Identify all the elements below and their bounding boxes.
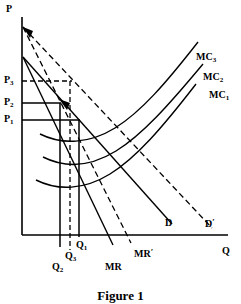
curve-label-mr-prime-mark: ′ [151, 247, 154, 257]
curve-label-d-prime: D′ [205, 218, 215, 229]
axes-group [22, 17, 228, 235]
curve-label-mr-prime-base: MR [134, 248, 151, 259]
quantity-tick-q3-sub: 3 [73, 255, 77, 263]
price-tick-p3: P3 [4, 75, 14, 87]
curve-label-mc3: MC3 [196, 52, 216, 64]
economics-diagram [0, 0, 241, 304]
marginal-revenue-mr-prime [23, 27, 131, 243]
demand-shifted-group [23, 27, 212, 228]
quantity-tick-q2: Q2 [52, 262, 63, 274]
x-axis-label: Q [222, 246, 230, 256]
curve-label-mc1-base: MC [209, 89, 226, 100]
mr-shifted-group [23, 27, 131, 243]
price-tick-p2: P2 [4, 97, 14, 109]
mr-curve-group [23, 57, 113, 245]
mc3-curve [40, 42, 198, 141]
quantity-tick-q2-base: Q [52, 261, 60, 272]
curve-label-mc2-base: MC [203, 71, 220, 82]
curve-label-mr-prime: MR′ [134, 248, 153, 259]
price-tick-p3-sub: 3 [10, 79, 14, 87]
curve-label-d-prime-mark: ′ [212, 217, 215, 227]
quantity-tick-q1: Q1 [76, 240, 87, 252]
curve-label-mc2: MC2 [203, 72, 223, 84]
quantity-tick-q3-base: Q [65, 250, 73, 261]
figure-container: P Q P3 P2 P1 Q1 Q3 Q2 MC3 MC2 MC1 D D′ M… [0, 0, 241, 304]
y-axis-label: P [6, 4, 12, 14]
price-tick-p1-sub: 1 [10, 118, 14, 126]
quantity-tick-q2-sub: 2 [60, 266, 64, 274]
price-tick-p1: P1 [4, 114, 14, 126]
quantity-tick-q1-base: Q [76, 239, 84, 250]
curve-label-mr: MR [105, 262, 122, 272]
curve-label-mc3-base: MC [196, 51, 213, 62]
demand-curve-d-prime [23, 27, 212, 228]
figure-caption: Figure 1 [0, 288, 241, 304]
curve-label-mc1-sub: 1 [226, 94, 230, 102]
curve-label-mc2-sub: 2 [220, 76, 224, 84]
curve-label-mc1: MC1 [209, 90, 229, 102]
quantity-tick-q1-sub: 1 [84, 244, 88, 252]
marginal-revenue-mr [23, 57, 113, 245]
quantity-tick-q3: Q3 [65, 251, 76, 263]
curve-label-mc3-sub: 3 [213, 56, 217, 64]
curve-label-d: D [165, 218, 172, 228]
price-tick-p2-sub: 2 [10, 101, 14, 109]
